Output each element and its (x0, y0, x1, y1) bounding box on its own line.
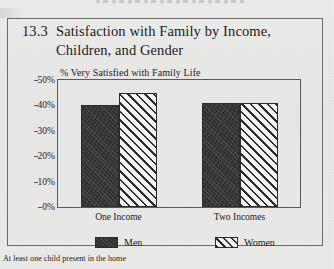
y-axis-tick-mark (34, 131, 38, 132)
y-axis-tick-mark (34, 182, 38, 183)
page-scan-smudge (0, 8, 24, 18)
figure-title-line-2: Children, and Gender (56, 41, 312, 60)
bar-women-two-incomes (240, 103, 278, 207)
figure-number: 13.3 (22, 22, 56, 41)
scanned-page-background: 13.3Satisfaction with Family by Income, … (0, 0, 334, 269)
y-axis-tick-label: 10% (38, 177, 55, 187)
y-axis-tick-mark (38, 207, 42, 208)
y-axis-tick-label: 0% (42, 202, 55, 212)
bar-group (179, 80, 300, 207)
y-axis-tick-mark (34, 105, 38, 106)
bar-group (58, 80, 179, 207)
y-axis-tick-label: 30% (38, 126, 55, 136)
legend-item-women[interactable]: Women (215, 237, 275, 248)
y-axis-tick-mark (34, 156, 38, 157)
y-axis-tick-mark (34, 80, 38, 81)
bar-men-one-income (81, 105, 119, 207)
figure-footnote: At least one child present in the home (3, 254, 126, 263)
bar-women-one-income (119, 93, 157, 207)
bars-layer (58, 80, 300, 207)
y-axis-tick-labels: 0%10%20%30%40%50% (24, 73, 55, 214)
legend-swatch-women (215, 237, 238, 248)
legend-item-men[interactable]: Men (95, 237, 142, 248)
bar-men-two-incomes (202, 103, 240, 207)
chart-subtitle: % Very Satisfied with Family Life (60, 67, 201, 78)
y-axis-tick-label: 50% (38, 75, 55, 85)
page-top-text-bleed (96, 0, 246, 3)
legend-label: Women (244, 237, 275, 248)
y-axis-tick-label: 40% (38, 100, 55, 110)
legend-swatch-men (95, 237, 118, 248)
legend-label: Men (124, 237, 142, 248)
y-axis-tick-label: 20% (38, 151, 55, 161)
figure-title-line-1: Satisfaction with Family by Income, (56, 23, 271, 39)
figure-title: 13.3Satisfaction with Family by Income, … (22, 22, 312, 60)
x-axis-category-label: One Income (58, 212, 179, 222)
x-axis-category-label: Two Incomes (179, 212, 300, 222)
